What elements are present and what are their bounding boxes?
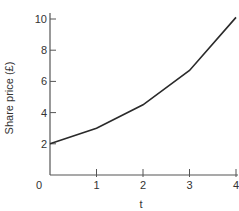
- share-price-line: [50, 17, 236, 143]
- y-axis-label: Share price (£): [3, 62, 15, 135]
- axes: [50, 13, 238, 175]
- x-tick-label: 1: [93, 179, 99, 191]
- x-tick-label: 2: [140, 179, 146, 191]
- ticks: 2468101234: [35, 13, 239, 191]
- origin-label: 0: [36, 179, 42, 191]
- y-tick-label: 6: [41, 75, 47, 87]
- y-tick-label: 2: [41, 138, 47, 150]
- y-tick-label: 10: [35, 13, 47, 25]
- chart: 2468101234 0 t Share price (£): [0, 0, 239, 211]
- y-tick-label: 4: [41, 107, 47, 119]
- x-tick-label: 3: [186, 179, 192, 191]
- y-tick-label: 8: [41, 44, 47, 56]
- x-tick-label: 4: [233, 179, 239, 191]
- x-axis-label: t: [139, 198, 142, 210]
